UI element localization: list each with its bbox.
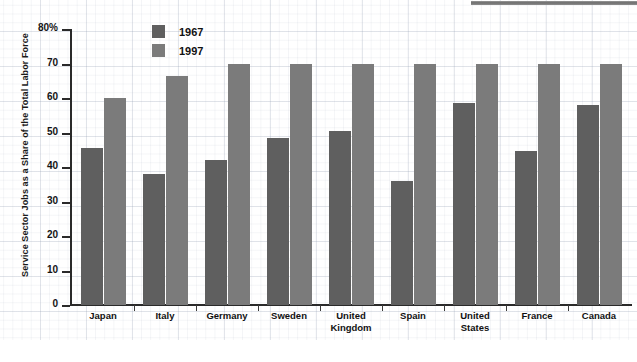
legend-label-1967: 1967 [179, 26, 203, 38]
x-axis-label-japan: Japan [72, 310, 134, 322]
legend-swatch-1997-icon [152, 44, 165, 57]
bar-1967-united-states [453, 103, 475, 305]
y-axis-tick: 40 [0, 167, 70, 168]
bar-1997-italy [166, 76, 188, 305]
y-axis-tick-mark [62, 133, 70, 135]
bar-1997-canada [600, 64, 622, 306]
y-axis-tick: 30 [0, 202, 70, 203]
bar-1997-spain [414, 64, 436, 306]
x-axis-label-line: United [444, 310, 506, 322]
y-axis-tick-label: 50 [47, 126, 58, 137]
x-axis-group-tick [506, 305, 507, 311]
bar-1967-france [515, 151, 537, 305]
bar-1967-germany [205, 160, 227, 305]
y-axis-tick: 70 [0, 64, 70, 65]
legend-label-1997: 1997 [179, 45, 203, 57]
x-axis-group-tick [258, 305, 259, 311]
y-axis-tick: 50 [0, 133, 70, 134]
x-axis-label-line: Italy [134, 310, 196, 322]
y-axis-tick: 0 [0, 305, 70, 306]
bar-1967-spain [391, 181, 413, 305]
x-axis-label-italy: Italy [134, 310, 196, 322]
x-axis-label-united-kingdom: UnitedKingdom [320, 310, 382, 333]
x-axis-label-line: Germany [196, 310, 258, 322]
chart-legend: 1967 1997 [152, 22, 262, 60]
bar-1967-sweden [267, 138, 289, 305]
x-axis-label-canada: Canada [568, 310, 630, 322]
bar-1967-united-kingdom [329, 131, 351, 305]
y-axis-tick: 60 [0, 98, 70, 99]
y-axis-title: Service Sector Jobs as a Share of the To… [17, 0, 33, 310]
y-axis-tick-label: 10 [47, 264, 58, 275]
x-axis-label-france: France [506, 310, 568, 322]
x-axis-label-line: Canada [568, 310, 630, 322]
y-axis-tick-label: 60 [47, 91, 58, 102]
bar-1997-japan [104, 98, 126, 305]
x-axis-group-tick [568, 305, 569, 311]
x-axis-label-spain: Spain [382, 310, 444, 322]
bar-1967-italy [143, 174, 165, 305]
legend-swatch-1967-icon [152, 25, 165, 38]
x-axis-label-united-states: UnitedStates [444, 310, 506, 333]
y-axis-tick: 20 [0, 236, 70, 237]
y-axis-tick-mark [62, 236, 70, 238]
y-axis-tick-label: 80% [38, 22, 58, 33]
x-axis-group-tick [444, 305, 445, 311]
y-axis-tick-label: 20 [47, 229, 58, 240]
x-axis-label-sweden: Sweden [258, 310, 320, 322]
bar-1997-france [538, 64, 560, 306]
x-axis-label-germany: Germany [196, 310, 258, 322]
y-axis-tick-label: 30 [47, 195, 58, 206]
y-axis-tick-mark [62, 29, 70, 31]
x-axis-label-line: Sweden [258, 310, 320, 322]
y-axis-tick-label: 0 [52, 298, 58, 309]
x-axis-group-tick [196, 305, 197, 311]
y-axis-tick: 10 [0, 271, 70, 272]
x-axis-label-line: States [444, 322, 506, 334]
bar-1997-united-kingdom [352, 64, 374, 306]
y-axis-tick-mark [62, 202, 70, 204]
y-axis-tick-mark [62, 271, 70, 273]
bar-1967-japan [81, 148, 103, 305]
y-axis-title-text: Service Sector Jobs as a Share of the To… [20, 33, 30, 277]
bar-1967-canada [577, 105, 599, 305]
y-axis-tick-mark [62, 305, 70, 307]
chart-page: Service Sector Jobs as a Share of the To… [0, 0, 637, 362]
legend-item-1967: 1967 [152, 22, 262, 41]
x-axis-label-line: Kingdom [320, 322, 382, 334]
x-axis-label-line: France [506, 310, 568, 322]
bar-chart: Service Sector Jobs as a Share of the To… [0, 0, 637, 340]
bar-1997-united-states [476, 64, 498, 306]
legend-item-1997: 1997 [152, 41, 262, 60]
bar-1997-sweden [290, 64, 312, 306]
x-axis-group-tick [382, 305, 383, 311]
x-axis-label-line: Japan [72, 310, 134, 322]
y-axis-tick-label: 70 [47, 57, 58, 68]
y-axis-tick-mark [62, 98, 70, 100]
y-axis-tick-mark [62, 167, 70, 169]
y-axis-tick-mark [62, 64, 70, 66]
x-axis-group-tick [134, 305, 135, 311]
y-axis-tick-label: 40 [47, 160, 58, 171]
bar-1997-germany [228, 64, 250, 306]
x-axis-label-line: Spain [382, 310, 444, 322]
x-axis-label-line: United [320, 310, 382, 322]
x-axis-group-tick [320, 305, 321, 311]
y-axis-tick: 80% [0, 29, 70, 30]
